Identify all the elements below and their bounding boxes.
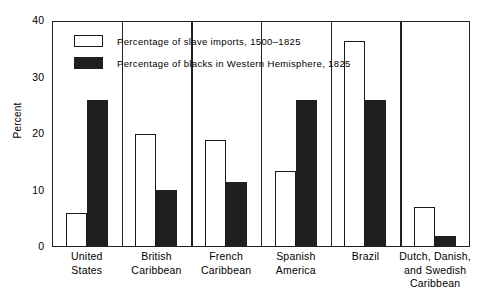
bar-blacks	[156, 190, 177, 247]
x-tick-label: Dutch, Danish,and SwedishCaribbean	[392, 250, 478, 291]
legend-label-blacks: Percentage of blacks in Western Hemisphe…	[117, 58, 351, 69]
bar-chart-figure: Percent 010203040 Percentage of slave im…	[0, 0, 489, 307]
bar-imports	[275, 171, 296, 247]
bar-blacks	[226, 182, 247, 247]
legend-label-imports: Percentage of slave imports, 1500–1825	[117, 36, 301, 47]
chart-legend: Percentage of slave imports, 1500–1825 P…	[74, 30, 374, 74]
y-tick-label: 30	[18, 72, 44, 82]
x-tick-label-line: America	[253, 264, 339, 278]
x-tick-label-line: Caribbean	[392, 277, 478, 291]
bar-group	[400, 21, 470, 247]
bar-blacks	[435, 236, 456, 247]
x-tick-label-line: Dutch, Danish,	[392, 250, 478, 264]
bar-imports	[135, 134, 156, 247]
bar-imports	[205, 140, 226, 247]
y-tick-label: 20	[18, 128, 44, 138]
y-tick-label: 40	[18, 15, 44, 25]
legend-swatch-imports	[74, 35, 103, 47]
bar-blacks	[87, 100, 108, 247]
y-axis-title: Percent	[12, 86, 23, 156]
y-tick-label: 0	[18, 241, 44, 251]
x-tick-label-line: and Swedish	[392, 264, 478, 278]
x-axis-labels: UnitedStatesBritishCaribbeanFrenchCaribb…	[52, 250, 470, 306]
y-tick-label: 10	[18, 185, 44, 195]
bar-imports	[66, 213, 87, 247]
bar-blacks	[365, 100, 386, 247]
legend-swatch-blacks	[74, 57, 103, 69]
bar-blacks	[296, 100, 317, 247]
legend-item-imports: Percentage of slave imports, 1500–1825	[74, 30, 374, 52]
legend-item-blacks: Percentage of blacks in Western Hemisphe…	[74, 52, 374, 74]
bar-imports	[414, 207, 435, 247]
